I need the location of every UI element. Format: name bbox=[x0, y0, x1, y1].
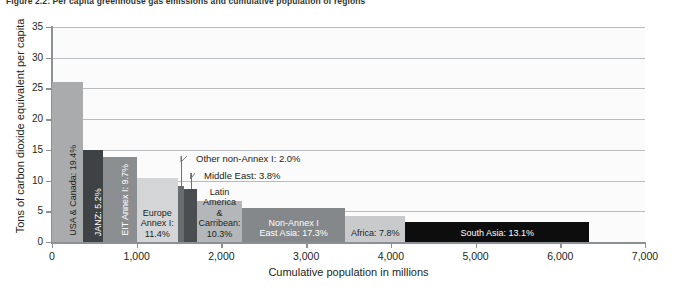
bar-usa-canada: USA & Canada: 19.4% bbox=[52, 82, 83, 242]
x-axis-tick-label: 2,000 bbox=[191, 250, 251, 262]
x-axis-tick-label: 4,000 bbox=[361, 250, 421, 262]
y-axis-tick bbox=[46, 150, 51, 151]
y-axis-tick bbox=[46, 181, 51, 182]
y-axis-tick-label: 20 bbox=[0, 114, 43, 124]
callout-leader-stem bbox=[181, 156, 182, 186]
gridline bbox=[52, 27, 645, 28]
y-axis-tick bbox=[46, 27, 51, 28]
bar-eit-annex-i: EIT Annex I: 9.7% bbox=[103, 157, 137, 242]
gridline bbox=[52, 150, 645, 151]
callout-label: Middle East: 3.8% bbox=[204, 170, 281, 181]
bar-south-asia: South Asia: 13.1% bbox=[405, 222, 589, 242]
bar-label: EIT Annex I: 9.7% bbox=[120, 157, 131, 236]
x-axis-tick bbox=[476, 243, 477, 248]
bar-label: Non-Annex I East Asia: 17.3% bbox=[242, 218, 345, 239]
x-axis-tick-label: 3,000 bbox=[276, 250, 336, 262]
x-axis-title: Cumulative population in millions bbox=[52, 266, 645, 278]
x-axis-tick bbox=[137, 243, 138, 248]
bar-non-annex-i-east-asia: Non-Annex I East Asia: 17.3% bbox=[242, 208, 345, 242]
bar-middle-east bbox=[184, 189, 197, 242]
x-axis-tick-label: 0 bbox=[22, 250, 82, 262]
y-axis-tick bbox=[46, 119, 51, 120]
y-axis-tick-label: 35 bbox=[0, 22, 43, 32]
bar-janz: JANZ: 5.2% bbox=[83, 150, 102, 242]
bar-label: USA & Canada: 19.4% bbox=[68, 82, 79, 236]
x-axis-tick-label: 5,000 bbox=[446, 250, 506, 262]
bar-label: South Asia: 13.1% bbox=[405, 228, 589, 239]
bar-label: Africa: 7.8% bbox=[345, 228, 405, 239]
y-axis-tick bbox=[46, 58, 51, 59]
y-axis-tick-label: 0 bbox=[0, 237, 43, 247]
y-axis-tick-label: 5 bbox=[0, 206, 43, 216]
y-axis-tick bbox=[46, 211, 51, 212]
x-axis-tick bbox=[221, 243, 222, 248]
y-axis-tick-label: 30 bbox=[0, 53, 43, 63]
y-axis-tick bbox=[46, 242, 51, 243]
x-axis-tick bbox=[306, 243, 307, 248]
x-axis-tick bbox=[391, 243, 392, 248]
bar-africa: Africa: 7.8% bbox=[345, 216, 405, 242]
y-axis-tick-label: 15 bbox=[0, 145, 43, 155]
gridline bbox=[52, 58, 645, 59]
callout-leader-stem bbox=[191, 173, 192, 189]
x-axis-tick bbox=[560, 243, 561, 248]
gridline bbox=[52, 88, 645, 89]
bar-label: Europe Annex I: 11.4% bbox=[137, 208, 178, 240]
x-axis-tick-label: 7,000 bbox=[615, 250, 674, 262]
gridline bbox=[52, 119, 645, 120]
callout-label: Other non-Annex I: 2.0% bbox=[196, 153, 301, 164]
y-axis-tick bbox=[46, 88, 51, 89]
y-axis-tick-label: 10 bbox=[0, 176, 43, 186]
x-axis-tick bbox=[645, 243, 646, 248]
x-axis-line bbox=[51, 242, 646, 244]
x-axis-tick-label: 1,000 bbox=[107, 250, 167, 262]
bar-europe-annex-ii-m-t: Europe Annex I: 11.4% bbox=[137, 178, 178, 243]
bar-label: Latin America & Carribean: 10.3% bbox=[197, 187, 242, 240]
x-axis-tick bbox=[52, 243, 53, 248]
x-axis-tick-label: 6,000 bbox=[530, 250, 590, 262]
bar-latin-america-carribean: Latin America & Carribean: 10.3% bbox=[197, 201, 242, 242]
chart-canvas: Tons of carbon dioxide equivalent per ca… bbox=[0, 0, 674, 295]
y-axis-tick-label: 25 bbox=[0, 83, 43, 93]
